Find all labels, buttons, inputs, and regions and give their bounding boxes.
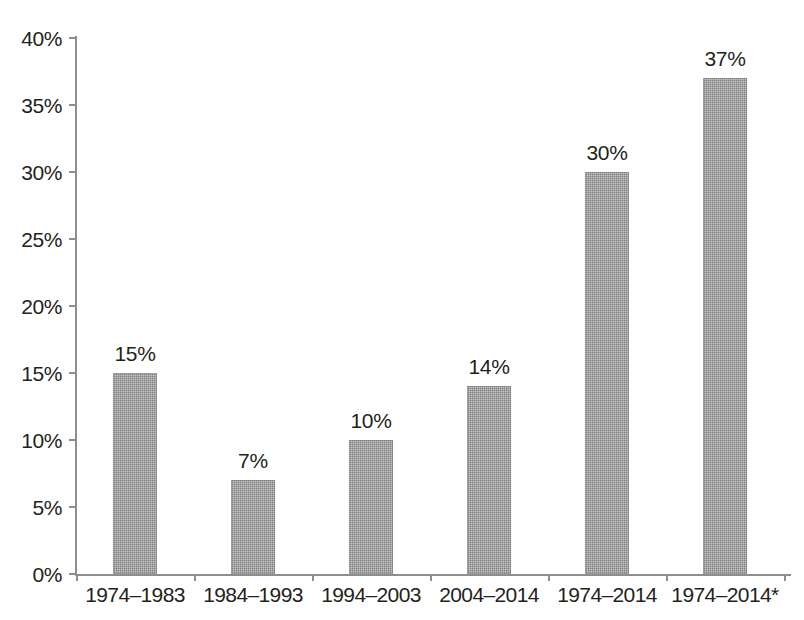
y-axis-tick-mark xyxy=(69,238,76,240)
x-axis-tick-mark xyxy=(76,574,78,581)
y-axis-tick-label: 0% xyxy=(0,564,62,585)
bar xyxy=(349,440,393,574)
x-axis-tick-mark xyxy=(194,574,196,581)
y-axis-tick-mark xyxy=(69,104,76,106)
y-axis-tick-label: 30% xyxy=(0,162,62,183)
bar-value-label: 15% xyxy=(90,343,180,364)
x-axis-tick-mark xyxy=(312,574,314,581)
bar-value-label: 30% xyxy=(562,142,652,163)
bar xyxy=(585,172,629,574)
x-axis-line xyxy=(75,574,791,576)
x-axis-tick-mark xyxy=(548,574,550,581)
x-axis-tick-mark xyxy=(666,574,668,581)
y-axis-tick-label: 10% xyxy=(0,430,62,451)
bar xyxy=(703,78,747,574)
y-axis-tick-label: 25% xyxy=(0,229,62,250)
y-axis-tick-label: 40% xyxy=(0,28,62,49)
x-axis-tick-mark xyxy=(430,574,432,581)
bar-chart: 0%5%10%15%20%25%30%35%40% 15%7%10%14%30%… xyxy=(0,0,804,620)
bar-value-label: 14% xyxy=(444,356,534,377)
bar xyxy=(231,480,275,574)
y-axis-tick-mark xyxy=(69,506,76,508)
x-axis-category-label: 1974–2014* xyxy=(650,583,800,606)
y-axis-tick-mark xyxy=(69,439,76,441)
y-axis-tick-mark xyxy=(69,573,76,575)
y-axis-tick-label: 15% xyxy=(0,363,62,384)
y-axis-tick-mark xyxy=(69,171,76,173)
y-axis-tick-label: 20% xyxy=(0,296,62,317)
y-axis-tick-label: 35% xyxy=(0,95,62,116)
y-axis-tick-mark xyxy=(69,37,76,39)
bar xyxy=(467,386,511,574)
bar xyxy=(113,373,157,574)
y-axis-tick-mark xyxy=(69,372,76,374)
bar-value-label: 7% xyxy=(208,450,298,471)
y-axis-tick-label: 5% xyxy=(0,497,62,518)
x-axis-tick-mark xyxy=(784,574,786,581)
y-axis-tick-mark xyxy=(69,305,76,307)
bar-value-label: 10% xyxy=(326,410,416,431)
bar-value-label: 37% xyxy=(680,48,770,69)
